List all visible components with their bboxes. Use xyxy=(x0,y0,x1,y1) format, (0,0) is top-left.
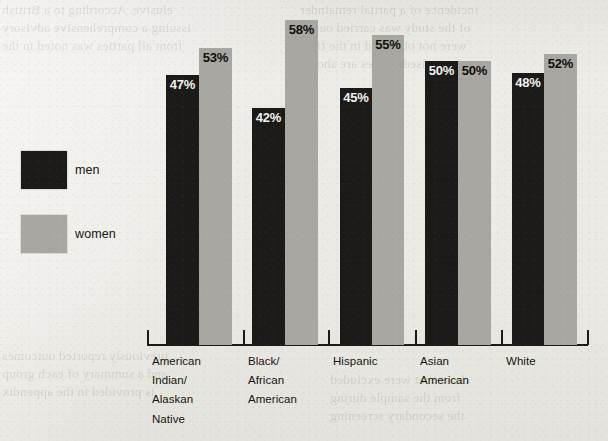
bar-value-label: 42% xyxy=(252,111,285,125)
bar-men-0: 47% xyxy=(166,75,199,345)
bar-value-label: 50% xyxy=(425,64,458,78)
bar-value-label: 48% xyxy=(512,76,544,90)
bar-men-1: 42% xyxy=(252,108,285,345)
bar-value-label: 45% xyxy=(340,91,372,105)
bar-women-0: 53% xyxy=(199,48,232,345)
bar-value-label: 55% xyxy=(372,38,404,52)
bar-women-4: 52% xyxy=(544,54,577,345)
scanned-page: elusive. According to a British issuing … xyxy=(0,0,608,441)
axis-tick xyxy=(501,330,503,345)
bar-value-label: 53% xyxy=(199,51,232,65)
category-label-0: American Indian/ Alaskan Native xyxy=(152,352,201,429)
bar-women-2: 55% xyxy=(372,35,404,345)
bar-men-4: 48% xyxy=(512,73,544,345)
bar-men-3: 50% xyxy=(425,61,458,345)
axis-tick xyxy=(328,330,330,345)
bar-value-label: 52% xyxy=(544,57,577,71)
axis-tick xyxy=(415,330,417,345)
bar-value-label: 50% xyxy=(458,64,491,78)
category-label-3: Asian American xyxy=(420,352,469,390)
bar-value-label: 58% xyxy=(285,23,318,37)
bar-men-2: 45% xyxy=(340,88,372,345)
bar-women-3: 50% xyxy=(458,61,491,345)
category-label-2: Hispanic xyxy=(333,352,378,371)
bar-women-1: 58% xyxy=(285,20,318,345)
plot-area: 47%53%American Indian/ Alaskan Native42%… xyxy=(0,0,608,441)
bar-value-label: 47% xyxy=(166,78,199,92)
axis-tick xyxy=(147,330,149,345)
category-label-1: Black/ African American xyxy=(248,352,297,410)
category-label-4: White xyxy=(506,352,536,371)
axis-tick xyxy=(243,330,245,345)
axis-tick xyxy=(587,330,589,345)
